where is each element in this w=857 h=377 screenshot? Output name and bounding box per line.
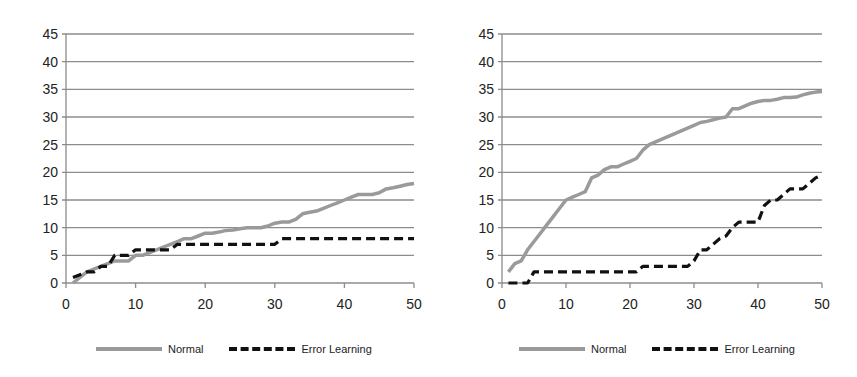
x-tick-label: 10 xyxy=(558,296,574,312)
legend-item-error-learning: Error Learning xyxy=(229,343,371,355)
y-tick-label: 20 xyxy=(478,164,494,180)
x-tick-label: 30 xyxy=(686,296,702,312)
legend-item-normal: Normal xyxy=(519,343,626,355)
legend-right: Normal Error Learning xyxy=(519,343,821,355)
error-learning-series-line xyxy=(73,239,414,278)
y-tick-label: 0 xyxy=(50,275,58,291)
y-tick-label: 40 xyxy=(478,54,494,70)
legend-label-error-learning: Error Learning xyxy=(301,343,371,355)
left-line-chart: 05101520253035404501020304050 xyxy=(0,0,430,377)
y-tick-label: 25 xyxy=(478,137,494,153)
x-tick-label: 40 xyxy=(337,296,353,312)
chart-right: 05101520253035404501020304050 Normal Err… xyxy=(430,0,857,377)
y-tick-label: 5 xyxy=(486,247,494,263)
error-learning-series-line xyxy=(508,175,822,283)
y-tick-label: 45 xyxy=(42,26,58,42)
y-tick-label: 35 xyxy=(42,81,58,97)
y-tick-label: 45 xyxy=(478,26,494,42)
chart-left: 05101520253035404501020304050 Normal Err… xyxy=(0,0,430,377)
y-tick-label: 10 xyxy=(42,220,58,236)
error-learning-line-swatch-icon xyxy=(229,347,295,351)
x-tick-label: 10 xyxy=(128,296,144,312)
legend-left: Normal Error Learning xyxy=(96,343,398,355)
x-tick-label: 0 xyxy=(498,296,506,312)
y-tick-label: 40 xyxy=(42,54,58,70)
y-tick-label: 15 xyxy=(478,192,494,208)
legend-item-error-learning: Error Learning xyxy=(652,343,794,355)
x-tick-label: 50 xyxy=(814,296,830,312)
normal-series-line xyxy=(508,92,822,272)
y-tick-label: 5 xyxy=(50,247,58,263)
y-tick-label: 15 xyxy=(42,192,58,208)
y-tick-label: 25 xyxy=(42,137,58,153)
error-learning-line-swatch-icon xyxy=(652,347,718,351)
x-tick-label: 20 xyxy=(622,296,638,312)
y-tick-label: 20 xyxy=(42,164,58,180)
legend-label-error-learning: Error Learning xyxy=(724,343,794,355)
x-tick-label: 50 xyxy=(406,296,422,312)
legend-label-normal: Normal xyxy=(168,343,203,355)
legend-item-normal: Normal xyxy=(96,343,203,355)
x-tick-label: 0 xyxy=(62,296,70,312)
x-tick-label: 30 xyxy=(267,296,283,312)
normal-line-swatch-icon xyxy=(96,347,162,351)
normal-series-line xyxy=(73,183,414,283)
y-tick-label: 30 xyxy=(478,109,494,125)
y-tick-label: 35 xyxy=(478,81,494,97)
y-tick-label: 10 xyxy=(478,220,494,236)
normal-line-swatch-icon xyxy=(519,347,585,351)
x-tick-label: 40 xyxy=(750,296,766,312)
legend-label-normal: Normal xyxy=(591,343,626,355)
y-tick-label: 0 xyxy=(486,275,494,291)
x-tick-label: 20 xyxy=(197,296,213,312)
y-tick-label: 30 xyxy=(42,109,58,125)
right-line-chart: 05101520253035404501020304050 xyxy=(430,0,857,377)
